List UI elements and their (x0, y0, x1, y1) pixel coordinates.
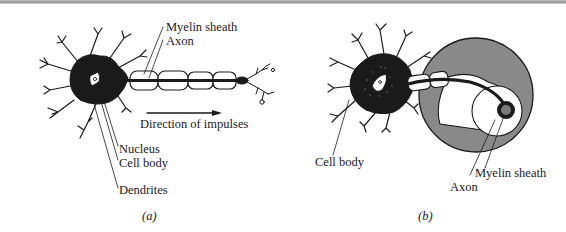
label-direction-of-impulses: Direction of impulses (140, 118, 248, 131)
label-dendrites-a: Dendrites (119, 184, 168, 197)
caption-a: (a) (142, 210, 157, 223)
label-cell-body-a: Cell body (119, 157, 168, 170)
label-axon-b: Axon (450, 181, 478, 194)
neuron-diagram (0, 0, 566, 232)
axon-terminals-a (247, 64, 275, 104)
panel-b-neuron (328, 24, 533, 175)
label-axon-a: Axon (166, 35, 194, 48)
label-myelin-sheath-b: Myelin sheath (475, 167, 546, 180)
label-cell-body-b: Cell body (315, 156, 364, 169)
label-myelin-sheath-a: Myelin sheath (166, 21, 237, 34)
axon-terminal-a (236, 77, 248, 84)
caption-b: (b) (418, 210, 433, 223)
label-nucleus-a: Nucleus (119, 143, 160, 156)
